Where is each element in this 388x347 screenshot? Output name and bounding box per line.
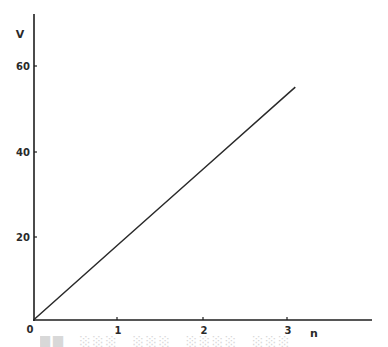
origin-label: 0 [27,324,34,335]
y-tick-label-60: 60 [16,61,30,72]
x-tick-label-1: 1 [115,325,122,336]
y-tick-label-20: 20 [16,232,30,243]
data-line [34,87,296,320]
x-tick-label-2: 2 [201,325,208,336]
truncated-caption: ██ ░░░ ░░░ ░░░░ ░░░ [40,336,370,347]
x-tick-label-3: 3 [285,325,292,336]
y-axis-label: V [16,28,25,41]
chart-canvas: 60 40 20 0 1 2 3 V n [0,0,388,347]
y-tick-label-40: 40 [16,147,30,158]
